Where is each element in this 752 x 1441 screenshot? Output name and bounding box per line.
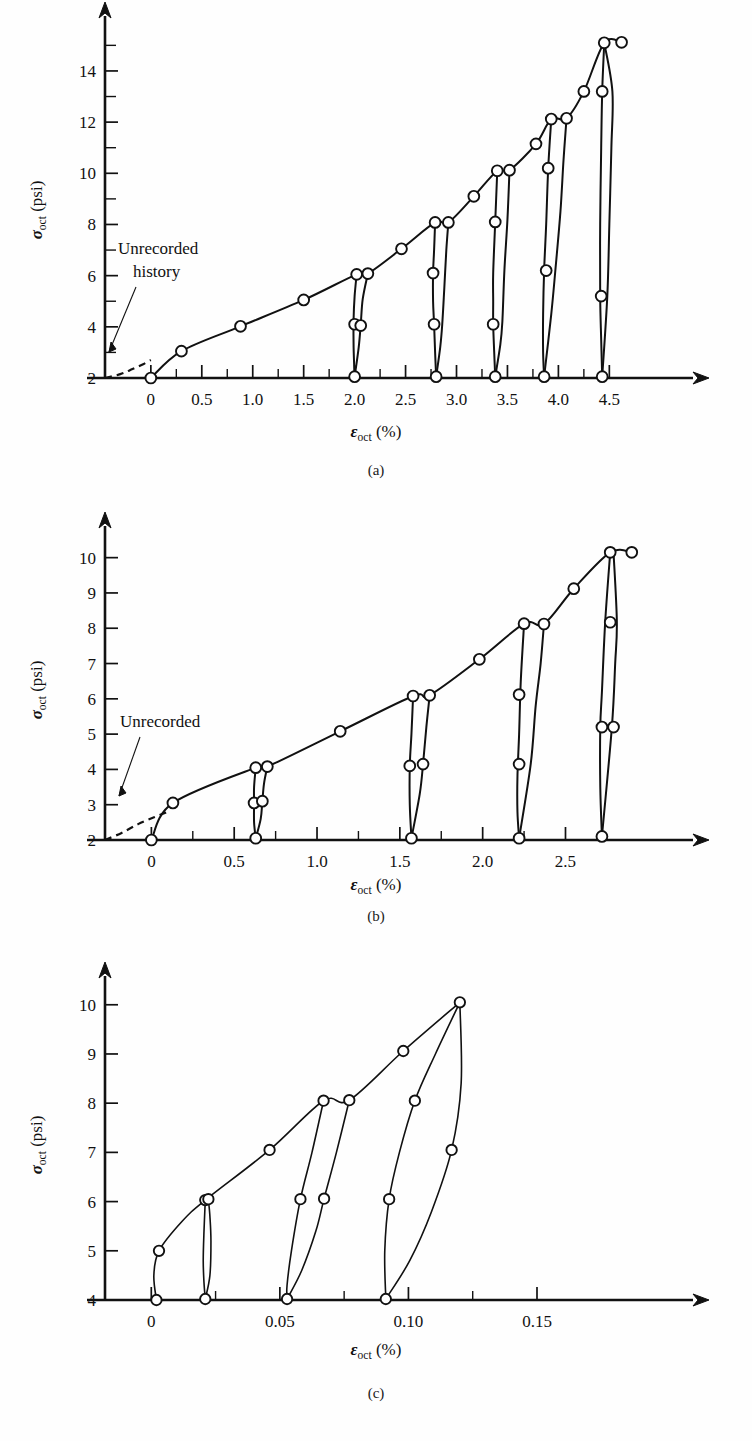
y-tick-label: 2 (88, 369, 97, 388)
svg-text:εoct (%): εoct (%) (351, 1340, 402, 1361)
data-curve (495, 170, 509, 376)
chart-b-curves (105, 550, 632, 840)
data-point-marker (200, 1294, 210, 1304)
data-point-marker (605, 547, 616, 558)
data-point-marker (362, 268, 373, 279)
y-tick-label: 6 (88, 690, 97, 709)
chart-b-data-points (146, 547, 637, 845)
data-curve (105, 360, 151, 378)
y-tick-label: 3 (88, 796, 97, 815)
y-tick-label: 10 (79, 549, 96, 568)
data-point-marker (519, 618, 530, 629)
x-tick-label: 3.0 (446, 390, 467, 409)
chart-c-tick-labels: 4567891000.050.100.15 (79, 996, 552, 1331)
chart-b-axes (87, 512, 709, 846)
data-point-marker (262, 761, 273, 772)
data-point-marker (455, 997, 465, 1007)
data-point-marker (176, 346, 187, 357)
x-tick-label: 2.0 (344, 390, 365, 409)
chart-c-y-axis-title: σoct (psi) (27, 1116, 48, 1175)
y-tick-label: 9 (88, 584, 97, 603)
data-point-marker (154, 1246, 164, 1256)
data-curve (544, 118, 566, 376)
chart-c-axis-ticks (105, 1005, 537, 1300)
data-point-marker (344, 1095, 354, 1105)
chart-b-svg: 234567891000.51.01.52.02.5 σoct (psi) εo… (0, 490, 752, 940)
data-point-marker (381, 1294, 391, 1304)
data-point-marker (504, 165, 515, 176)
data-point-marker (561, 113, 572, 124)
data-point-marker (468, 191, 479, 202)
chart-panel-a: 246810121400.51.01.52.02.53.03.54.04.5 σ… (0, 0, 752, 500)
y-tick-label: 4 (88, 318, 97, 337)
y-tick-label: 4 (88, 1291, 97, 1310)
y-tick-label: 8 (88, 1094, 97, 1113)
x-tick-label: 0.05 (265, 1312, 295, 1331)
data-curve (203, 1200, 205, 1299)
svg-text:εoct (%): εoct (%) (351, 875, 402, 896)
y-tick-label: 2 (88, 831, 97, 850)
data-curve (205, 1199, 211, 1299)
data-point-marker (430, 217, 441, 228)
y-tick-label: 5 (88, 1242, 97, 1261)
y-tick-label: 10 (79, 996, 96, 1015)
x-tick-label: 1.0 (242, 390, 263, 409)
data-curve (493, 171, 497, 377)
data-point-marker (250, 762, 261, 773)
data-point-marker (488, 319, 499, 330)
chart-b-tick-labels: 234567891000.51.01.52.02.5 (79, 549, 576, 871)
svg-text:εoct (%): εoct (%) (351, 422, 402, 443)
y-tick-label: 12 (79, 113, 96, 132)
data-point-marker (203, 1194, 213, 1204)
data-point-marker (257, 796, 268, 807)
x-tick-label: 2.0 (472, 852, 493, 871)
svg-text:σoct (psi): σoct (psi) (27, 181, 48, 240)
chart-b-annotation-line1: Unrecorded (120, 712, 201, 731)
data-point-marker (597, 86, 608, 97)
chart-a-annotation-line1: Unrecorded (118, 239, 199, 258)
data-point-marker (616, 37, 627, 48)
x-tick-label: 0 (147, 852, 156, 871)
data-point-marker (539, 371, 550, 382)
x-tick-label: 1.5 (293, 390, 314, 409)
x-tick-label: 0 (147, 1312, 156, 1331)
y-tick-label: 6 (88, 1193, 97, 1212)
data-point-marker (406, 833, 417, 844)
data-point-marker (492, 165, 503, 176)
y-tick-label: 6 (88, 267, 97, 286)
data-point-marker (428, 268, 439, 279)
data-curve (543, 119, 551, 377)
data-point-marker (539, 619, 550, 630)
x-tick-label: 2.5 (555, 852, 576, 871)
data-point-marker (335, 726, 346, 737)
chart-a-annotation-line2: history (133, 262, 181, 281)
y-tick-label: 7 (88, 655, 97, 674)
chart-a-annotation-arrowhead (109, 342, 116, 352)
x-tick-label: 1.5 (389, 852, 410, 871)
svg-text:σoct (psi): σoct (psi) (27, 1116, 48, 1175)
data-curve (433, 222, 436, 376)
data-point-marker (474, 654, 485, 665)
chart-b-y-axis-title: σoct (psi) (27, 661, 48, 720)
data-point-marker (319, 1193, 329, 1203)
data-point-marker (541, 265, 552, 276)
data-point-marker (418, 759, 429, 770)
data-curve (151, 550, 631, 840)
data-curve (602, 552, 617, 836)
data-point-marker (146, 835, 157, 846)
data-point-marker (396, 243, 407, 254)
data-point-marker (597, 831, 608, 842)
panel-caption-c: (c) (0, 1385, 752, 1402)
data-point-marker (355, 320, 366, 331)
data-point-marker (446, 1145, 456, 1155)
data-point-marker (235, 321, 246, 332)
x-tick-label: 4.0 (548, 390, 569, 409)
chart-b-annotation-arrowhead (119, 786, 126, 796)
chart-a-x-axis-title: εoct (%) (351, 422, 402, 443)
x-tick-label: 0.15 (522, 1312, 552, 1331)
chart-c-x-axis-title: εoct (%) (351, 1340, 402, 1361)
panel-caption-b: (b) (0, 908, 752, 925)
data-point-marker (490, 371, 501, 382)
data-point-marker (298, 295, 309, 306)
data-point-marker (295, 1194, 305, 1204)
